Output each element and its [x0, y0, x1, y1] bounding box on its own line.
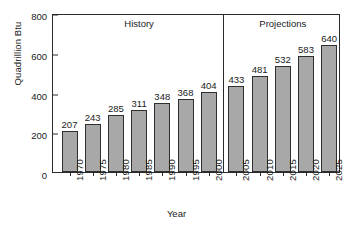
x-tick-label-1995: 1995	[190, 159, 201, 181]
x-tick-label-1980: 1980	[120, 159, 131, 181]
y-tick-mark	[53, 15, 58, 16]
x-tick-label-2015: 2015	[287, 159, 298, 181]
bar-value-label: 404	[201, 80, 217, 91]
y-tick-0: 0	[42, 165, 53, 183]
bar-value-label: 348	[154, 91, 170, 102]
bar-value-label: 532	[275, 54, 291, 65]
bar-value-label: 433	[228, 74, 244, 85]
y-tick-200: 200	[31, 125, 53, 143]
y-tick-mark	[53, 134, 58, 135]
x-tick-mark-2020	[306, 172, 307, 176]
y-tick-800: 800	[31, 6, 53, 24]
x-tick-mark-1980	[116, 172, 117, 176]
x-tick-mark-1985	[139, 172, 140, 176]
bar-rect[interactable]	[252, 76, 268, 172]
bar-value-label: 285	[108, 103, 124, 114]
projections-label: Projections	[259, 18, 306, 29]
y-axis-title: Quadrillion Btu	[12, 0, 23, 119]
plot-area: 0200400600800 20724328531134836840443348…	[52, 14, 340, 173]
x-tick-label-1985: 1985	[143, 159, 154, 181]
bar-chart: Quadrillion Btu Year 0200400600800 20724…	[0, 0, 353, 236]
bar-rect[interactable]	[298, 56, 314, 172]
x-tick-mark-1990	[162, 172, 163, 176]
x-tick-label-1990: 1990	[166, 159, 177, 181]
y-tick-mark	[53, 54, 58, 55]
y-tick-label: 400	[31, 91, 53, 102]
y-tick-mark	[53, 94, 58, 95]
bar-value-label: 640	[321, 33, 337, 44]
bar-value-label: 583	[298, 44, 314, 55]
x-tick-mark-2000	[209, 172, 210, 176]
x-tick-mark-2015	[283, 172, 284, 176]
bar-rect[interactable]	[275, 66, 291, 172]
y-tick-label: 0	[42, 170, 53, 181]
history-label: History	[124, 18, 154, 29]
bar-value-label: 481	[252, 64, 268, 75]
x-tick-label-2005: 2005	[240, 159, 251, 181]
y-tick-label: 200	[31, 130, 53, 141]
bar-value-label: 243	[85, 112, 101, 123]
bar-rect[interactable]	[321, 45, 337, 172]
y-tick-400: 400	[31, 86, 53, 104]
x-tick-label-1975: 1975	[97, 159, 108, 181]
history-projections-divider	[223, 15, 224, 172]
x-tick-label-2020: 2020	[310, 159, 321, 181]
y-tick-label: 800	[31, 11, 53, 22]
y-tick-label: 600	[31, 51, 53, 62]
y-tick-600: 600	[31, 46, 53, 64]
x-tick-mark-2010	[260, 172, 261, 176]
x-tick-mark-1970	[70, 172, 71, 176]
x-tick-mark-1995	[186, 172, 187, 176]
x-axis-title: Year	[0, 208, 353, 219]
bar-value-label: 207	[62, 119, 78, 130]
x-tick-label-2025: 2025	[333, 159, 344, 181]
bar-value-label: 311	[132, 98, 147, 109]
x-tick-label-1970: 1970	[74, 159, 85, 181]
bar-value-label: 368	[178, 87, 194, 98]
x-tick-mark-1975	[93, 172, 94, 176]
x-tick-label-2010: 2010	[264, 159, 275, 181]
x-tick-mark-2005	[236, 172, 237, 176]
x-tick-mark-2025	[329, 172, 330, 176]
